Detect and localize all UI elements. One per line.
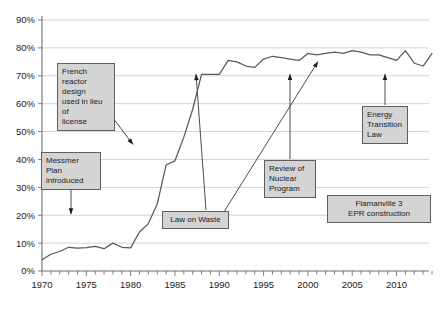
x-tick-label-1970: 1970: [31, 279, 52, 290]
annotation-line: French: [62, 67, 87, 76]
annotation-line: Transition: [367, 120, 402, 129]
annotation-law-on-waste-long-arrowhead: [313, 61, 318, 67]
annotation-line: Law: [367, 130, 382, 139]
x-tick-label-1990: 1990: [209, 279, 230, 290]
annotation-line: introduced: [46, 176, 83, 185]
x-tick-label-2005: 2005: [342, 279, 363, 290]
annotation-line: Flamanville 3: [355, 199, 402, 208]
annotation-line: Energy: [367, 110, 392, 119]
annotation-line: EPR construction: [348, 209, 410, 218]
y-tick-label-10: 10%: [16, 238, 36, 249]
x-tick-label-1995: 1995: [253, 279, 274, 290]
annotation-review-of-nuclear-program-arrowhead: [288, 74, 293, 80]
y-tick-label-80: 80%: [16, 42, 36, 53]
annotation-line: Nuclear: [269, 174, 297, 183]
annotation-french-reactor-design: Frenchreactor designused in lieu oflicen…: [57, 63, 115, 131]
chart-figure: 0%10%20%30%40%50%60%70%80%90% 1970197519…: [0, 0, 440, 309]
y-tick-label-70: 70%: [16, 70, 36, 81]
annotation-flamanville-3-epr: Flamanville 3EPR construction: [327, 195, 431, 223]
y-tick-label-30: 30%: [16, 182, 36, 193]
x-tick-label-1975: 1975: [76, 279, 97, 290]
tickmarks-group: [38, 20, 432, 276]
y-tick-label-50: 50%: [16, 126, 36, 137]
x-tick-label-1985: 1985: [164, 279, 185, 290]
x-axis-tick-labels: 197019751980198519901995200020052010: [31, 279, 407, 290]
x-tick-label-1980: 1980: [120, 279, 141, 290]
x-tick-label-2010: 2010: [386, 279, 407, 290]
y-tick-label-20: 20%: [16, 210, 36, 221]
y-tick-label-0: 0%: [21, 265, 35, 276]
y-tick-label-90: 90%: [16, 14, 36, 25]
annotation-line: Program: [269, 184, 300, 193]
y-tick-label-40: 40%: [16, 154, 36, 165]
annotation-line: Messmer Plan: [46, 156, 79, 175]
annotation-french-reactor-design-arrowhead: [128, 138, 133, 144]
annotation-energy-transition-law-arrowhead: [383, 74, 388, 80]
annotation-line: used in lieu of: [62, 97, 102, 116]
annotation-line: Law on Waste: [170, 215, 220, 224]
annotation-line: reactor design: [62, 77, 87, 96]
annotation-messmer-plan-arrowhead: [69, 208, 74, 214]
annotation-line: license: [62, 117, 87, 126]
annotation-review-of-nuclear-program: Review ofNuclearProgram: [264, 160, 316, 198]
x-tick-label-2000: 2000: [297, 279, 318, 290]
y-tick-label-60: 60%: [16, 98, 36, 109]
annotation-law-on-waste-leader: [196, 74, 206, 210]
annotation-line: Review of: [269, 164, 304, 173]
annotation-messmer-plan: Messmer Planintroduced: [41, 152, 101, 190]
annotation-energy-transition-law: EnergyTransitionLaw: [362, 106, 408, 144]
annotation-leader-lines: [69, 61, 388, 215]
annotation-law-on-waste: Law on Waste: [162, 211, 229, 229]
y-axis-tick-labels: 0%10%20%30%40%50%60%70%80%90%: [16, 14, 36, 276]
